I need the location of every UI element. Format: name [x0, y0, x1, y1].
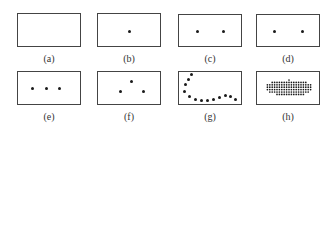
panel-label-h: (h)	[273, 111, 303, 122]
